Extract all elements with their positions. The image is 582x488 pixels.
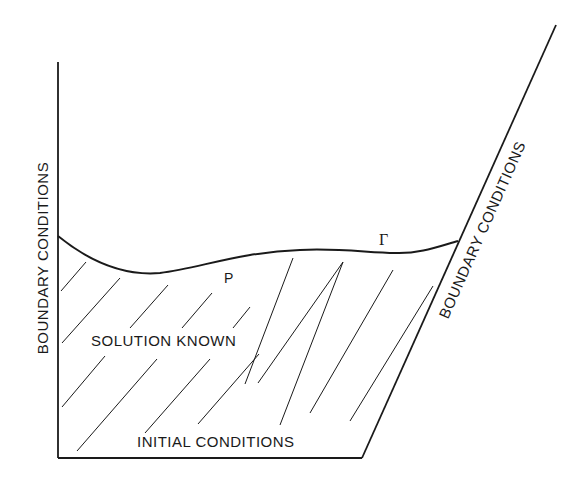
solution-domain-diagram: BOUNDARY CONDITIONS BOUNDARY CONDITIONS …: [0, 0, 582, 488]
gamma-curve: [58, 236, 458, 273]
gamma-label: Γ: [379, 231, 388, 248]
solution-known-label: SOLUTION KNOWN: [91, 332, 236, 349]
right-boundary-label: BOUNDARY CONDITIONS: [435, 138, 529, 321]
right-boundary-line: [362, 25, 556, 458]
left-boundary-label: BOUNDARY CONDITIONS: [34, 162, 51, 354]
point-p-label: P: [224, 270, 234, 286]
initial-conditions-label: INITIAL CONDITIONS: [137, 433, 295, 450]
